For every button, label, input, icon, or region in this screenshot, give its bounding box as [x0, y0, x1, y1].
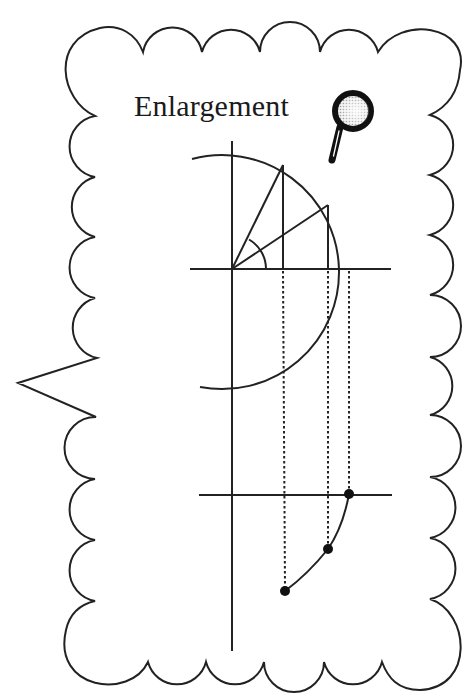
angle-arc [249, 240, 266, 270]
semicircle-arc [192, 155, 339, 389]
lower-curve [285, 494, 349, 591]
point-2 [323, 544, 333, 554]
plotted-points [280, 489, 354, 596]
dotted-line-1 [283, 271, 285, 588]
radius-line-1 [232, 165, 283, 269]
lower-figure [199, 494, 392, 591]
point-3 [280, 586, 290, 596]
dotted-projection-lines [283, 271, 349, 588]
enlargement-diagram: Enlargement [0, 0, 475, 698]
diagram-title: Enlargement [134, 88, 289, 124]
upper-figure [190, 141, 391, 651]
radius-line-2 [232, 205, 328, 269]
magnifying-glass-icon [332, 93, 371, 160]
point-1 [344, 489, 354, 499]
